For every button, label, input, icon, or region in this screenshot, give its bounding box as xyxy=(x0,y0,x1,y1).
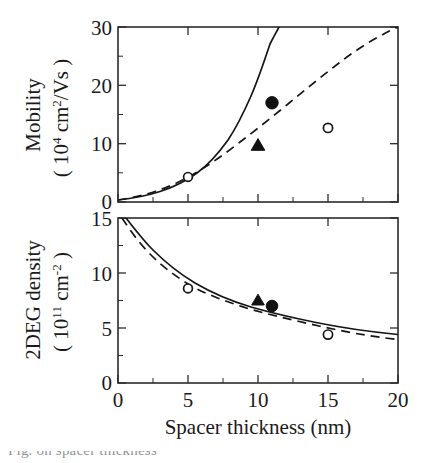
bottom-y-ticklabel-5: 5 xyxy=(102,317,113,341)
partial-caption-text: Fig. on spacer thickness xyxy=(8,451,157,459)
top-point-open-circle-5 xyxy=(184,173,193,182)
top-point-filled-circle-11 xyxy=(266,97,278,109)
x-ticklabel-15: 15 xyxy=(318,388,339,412)
bottom-y-ticklabel-15: 15 xyxy=(91,207,112,231)
bottom-y-units-cm: cm xyxy=(49,275,73,306)
two-panel-plot: Mobility ( 104 cm2/Vs ) 30 20 10 0 xyxy=(0,0,430,463)
x-ticklabel-10: 10 xyxy=(248,388,269,412)
bottom-point-open-circle-5 xyxy=(184,284,193,293)
bottom-y-ticklabel-10: 10 xyxy=(91,262,112,286)
top-y-ticklabel-20: 20 xyxy=(91,74,112,98)
top-y-ticklabel-30: 30 xyxy=(91,16,112,40)
caption-strip: Fig. on spacer thickness xyxy=(0,451,430,463)
top-y-units-cm: cm xyxy=(49,107,73,138)
x-axis-title: Spacer thickness (nm) xyxy=(165,415,352,439)
bottom-point-filled-circle-11 xyxy=(266,300,278,312)
bottom-y-units-exp2: -2 xyxy=(49,264,64,275)
top-panel-y-axis-units: ( 104 cm2/Vs ) xyxy=(49,59,73,178)
top-y-axis-title-main: Mobility xyxy=(21,78,45,152)
svg-text:( 104 cm2/Vs ): ( 104 cm2/Vs ) xyxy=(49,59,73,178)
x-ticklabel-5: 5 xyxy=(183,388,194,412)
figure-root: Mobility ( 104 cm2/Vs ) 30 20 10 0 xyxy=(0,0,430,463)
top-y-units-tail: /Vs ) xyxy=(49,59,73,100)
bottom-y-units-exp1: 11 xyxy=(49,306,64,319)
bottom-y-ticklabel-0: 0 xyxy=(102,371,113,395)
bottom-point-open-circle-15 xyxy=(323,330,332,339)
top-panel-y-axis-title: Mobility xyxy=(21,78,45,152)
x-ticklabel-0: 0 xyxy=(113,388,124,412)
bottom-panel-y-axis-title: 2DEG density xyxy=(21,240,45,360)
x-ticklabel-20: 20 xyxy=(388,388,409,412)
bottom-y-units-open: ( 10 xyxy=(49,319,73,352)
top-y-ticklabel-10: 10 xyxy=(91,132,112,156)
bottom-y-units-tail: ) xyxy=(49,252,73,264)
top-y-units-open: ( 10 xyxy=(49,144,73,177)
bottom-y-axis-title-main: 2DEG density xyxy=(21,240,45,360)
top-point-open-circle-15 xyxy=(323,123,332,132)
